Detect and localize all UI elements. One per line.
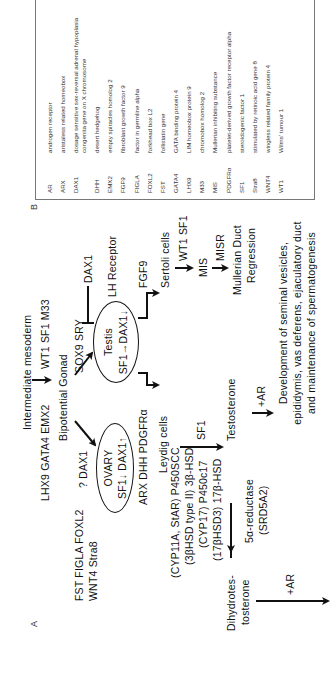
table-row: M33chromobox homolog 2 xyxy=(198,0,206,193)
bipotential-gonad-label: Bipotential Gonad xyxy=(58,354,69,441)
intermediate-mesoderm-label: Intermediate mesoderm xyxy=(22,315,33,430)
table-row: FSTfollistatin gene xyxy=(159,0,167,193)
table-row: DAX1dosage sensitive sex-reversal adrena… xyxy=(72,0,88,193)
abbr-cell: DAX1 xyxy=(72,153,88,193)
abbr-cell: MIS xyxy=(211,153,219,193)
testis-subtitle: SF1→DAX1↓ xyxy=(118,302,129,382)
testis-title: Testis xyxy=(103,302,114,382)
development-line-3: and maintenance of spermatogenesis xyxy=(306,213,317,433)
table-row: FIGLAfactor in germline alpha xyxy=(133,0,141,193)
abbr-cell: GATA4 xyxy=(172,153,180,193)
dax1-inhibitor-label: DAX1 xyxy=(83,255,94,283)
testis-ellipse: Testis SF1→DAX1↓ xyxy=(93,301,139,383)
enzyme-line-3: (CYP17) P450c17 xyxy=(198,460,209,548)
desc-cell: stimulated by retinoic acid gene 8 xyxy=(251,0,259,153)
abbr-cell: M33 xyxy=(198,153,206,193)
abbr-cell: DHH xyxy=(93,153,101,193)
fgf9-label: FGF9 xyxy=(138,260,149,288)
abbr-cell: FST xyxy=(159,153,167,193)
enzyme-line-2: (3βHSD type II) 3β-HSD xyxy=(184,448,195,565)
abbr-cell: WNT4 xyxy=(264,153,272,193)
sox9-sry-label: SOX9 SRY xyxy=(74,319,85,373)
ovary-ellipse: OVARY SF1↓ DAX1↑ xyxy=(96,423,134,513)
sertoli-cells-label: Sertoli cells xyxy=(160,232,171,288)
desc-cell: follistatin gene xyxy=(159,0,167,153)
table-row: ARXaristaless related homeobox xyxy=(59,0,67,193)
abbreviation-table: ARandrogen receptor ARXaristaless relate… xyxy=(35,0,315,200)
ovary-title: OVARY xyxy=(103,424,114,512)
lh-receptor-label: LH Receptor xyxy=(107,236,118,297)
misr-label: MISR xyxy=(215,234,226,261)
desc-cell: LIM homeobox protein 9 xyxy=(185,0,193,153)
desc-cell: aristaless related homeobox xyxy=(59,0,67,153)
ar-dht-label: +AR xyxy=(285,574,296,595)
enzyme-line-1: (CYP11A, StAR) P450SCC xyxy=(170,447,181,578)
reductase-line1: 5α-reductase xyxy=(244,479,255,543)
leydig-factors-label: ARX DHH PDGFRα xyxy=(138,409,149,505)
desc-cell: dosage sensitive sex-reversal adrenal hy… xyxy=(72,0,88,153)
desc-cell: Mullerian inhibiting substance xyxy=(211,0,219,153)
desc-cell: steroidogenic factor 1 xyxy=(238,0,246,153)
table-row: ARandrogen receptor xyxy=(46,0,54,193)
table-row: DHHdesert hedgehog xyxy=(93,0,101,193)
table-row: FOXL2forkhead box L2 xyxy=(146,0,154,193)
upstream-factors-left: LHX9 GATA4 EMX2 xyxy=(40,404,51,501)
dht-line1: Dihydrotes- xyxy=(226,575,237,631)
desc-cell: androgen receptor xyxy=(46,0,54,153)
table-row: LHX9LIM homeobox protein 9 xyxy=(185,0,193,193)
abbr-cell: SF1 xyxy=(238,153,246,193)
development-line-1: Development of seminal vesicles, xyxy=(278,213,289,433)
ovary-factors-line2: WNT4 Stra8 xyxy=(88,541,99,601)
abbr-cell: FIGLA xyxy=(133,153,141,193)
abbr-cell: FGF9 xyxy=(119,153,127,193)
figure-canvas: A xyxy=(0,0,330,673)
table-row: SF1steroidogenic factor 1 xyxy=(238,0,246,193)
abbr-cell: EMX2 xyxy=(106,153,114,193)
table-row: GATA4GATA binding protein 4 xyxy=(172,0,180,193)
abbr-cell: FOXL2 xyxy=(146,153,154,193)
table-row: FGF9fibroblast growth factor 9 xyxy=(119,0,127,193)
testosterone-label: Testosterone xyxy=(226,378,237,441)
mullerian-line2: Regression xyxy=(246,228,257,283)
dht-line2: tosterone xyxy=(240,579,251,625)
table-row: WT1Wilms' tumour 1 xyxy=(277,0,285,193)
abbr-cell: ARX xyxy=(59,153,67,193)
desc-cell: platelet-derived growth factor receptor … xyxy=(225,0,233,153)
abbr-cell: LHX9 xyxy=(185,153,193,193)
desc-cell: desert hedgehog xyxy=(93,0,101,153)
enzyme-line-4: (17βHSD3) 17β-HSD xyxy=(212,459,223,561)
upstream-factors-right: WT1 SF1 M33 xyxy=(40,299,51,369)
ar-testosterone-label: +AR xyxy=(256,386,267,407)
abbr-cell: Stra8 xyxy=(251,153,259,193)
desc-cell: chromobox homolog 2 xyxy=(198,0,206,153)
abbr-cell: WT1 xyxy=(277,153,285,193)
mullerian-line1: Mullerian Duct xyxy=(232,225,243,295)
desc-cell: empty spiracles homolog 2 xyxy=(106,0,114,153)
leydig-cells-label: Leydig cells xyxy=(158,416,169,473)
panel-b-label: B xyxy=(30,204,39,210)
development-line-2: epididymis, vas deferens, ejaculatory du… xyxy=(292,213,303,433)
table-row: Stra8stimulated by retinoic acid gene 8 xyxy=(251,0,259,193)
ovary-factors-line1: FST FIGLA FOXL2 xyxy=(74,509,85,601)
table-row: MISMullerian inhibiting substance xyxy=(211,0,219,193)
abbr-cell: AR xyxy=(46,153,54,193)
desc-cell: GATA binding protein 4 xyxy=(172,0,180,153)
table-row: PDGFRαplatelet-derived growth factor rec… xyxy=(225,0,233,193)
desc-cell: wingless related family protein 4 xyxy=(264,0,272,153)
sf1-arrow-label: SF1 xyxy=(196,420,207,440)
desc-cell: factor in germline alpha xyxy=(133,0,141,153)
mis-label: MIS xyxy=(198,258,209,277)
ovary-subtitle: SF1↓ DAX1↑ xyxy=(117,424,128,512)
question-dax1-label: ? DAX1 xyxy=(78,451,89,488)
reductase-line2: (SRD5A2) xyxy=(258,486,269,535)
desc-cell: fibroblast growth factor 9 xyxy=(119,0,127,153)
abbr-cell: PDGFRα xyxy=(225,153,233,193)
desc-cell: forkhead box L2 xyxy=(146,0,154,153)
table-row: WNT4wingless related family protein 4 xyxy=(264,0,272,193)
wt1-sf1-label: WT1 SF1 xyxy=(178,215,189,261)
table-row: EMX2empty spiracles homolog 2 xyxy=(106,0,114,193)
desc-cell: Wilms' tumour 1 xyxy=(277,0,285,153)
